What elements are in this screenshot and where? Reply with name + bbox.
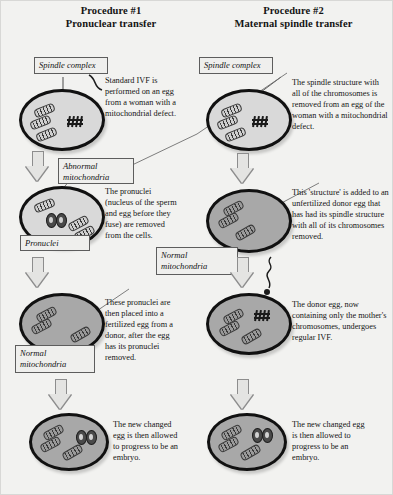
description-p1-step4: The new changed egg is then allowed to p… xyxy=(113,419,183,463)
label-normal-mitochondria-p2-text: Normal mitochondria xyxy=(161,250,207,271)
mitochondrion-icon xyxy=(30,318,53,336)
pronuclei-icon xyxy=(46,213,66,226)
mitochondrion-icon xyxy=(69,325,92,343)
mitochondrion-icon xyxy=(240,327,263,345)
column-title-procedure-2: Procedure #2 Maternal spindle transfer xyxy=(206,5,381,30)
egg-cell-p1-step1 xyxy=(19,89,105,151)
mitochondrion-icon xyxy=(234,223,257,241)
egg-cell-p1-step4 xyxy=(29,413,109,471)
chromosomes-icon xyxy=(68,116,82,127)
label-normal-mitochondria-p1-text: Normal mitochondria xyxy=(20,348,66,369)
egg-cell-p2-step4 xyxy=(207,413,287,471)
procedure-1-title-line2: Pronuclear transfer xyxy=(31,18,191,31)
description-p2-step3: The donor egg, now containing only the m… xyxy=(292,299,388,343)
label-normal-mitochondria-p2: Normal mitochondria xyxy=(156,247,238,275)
mitochondrion-icon xyxy=(39,436,62,454)
procedure-2-title-line2: Maternal spindle transfer xyxy=(206,18,381,31)
procedure-2-title-line1: Procedure #2 xyxy=(206,5,381,18)
label-spindle-complex-p2: Spindle complex xyxy=(199,57,273,74)
mitochondrion-icon xyxy=(61,443,84,461)
label-abnormal-mitochondria-p1: Abnormal mitochondria xyxy=(58,158,134,184)
description-p2-step1: The spindle structure with all of the ch… xyxy=(292,77,388,132)
mitochondrion-icon xyxy=(224,126,247,142)
egg-cell-p2-step3 xyxy=(206,293,292,355)
egg-cell-p2-step1 xyxy=(206,89,292,151)
mitochondrion-icon xyxy=(33,197,56,213)
description-p1-step3: These pronuclei are then placed into a f… xyxy=(105,297,179,364)
label-abnormal-mitochondria-p1-text: Abnormal mitochondria xyxy=(63,161,109,182)
flow-arrow-p1-1to2 xyxy=(26,151,48,181)
flow-arrow-p2-2to3 xyxy=(231,257,253,287)
mitochondrion-icon xyxy=(239,443,262,461)
mitochondrion-icon xyxy=(217,212,240,230)
flow-arrow-p1-3to4 xyxy=(49,379,71,409)
label-normal-mitochondria-p1: Normal mitochondria xyxy=(15,345,95,373)
chromosomes-icon xyxy=(253,116,267,127)
egg-cell-p2-step2 xyxy=(206,189,292,253)
flow-arrow-p2-3to4 xyxy=(231,379,253,409)
mitochondrion-icon xyxy=(217,436,240,454)
description-p2-step2: This 'structure' is added to an unfertil… xyxy=(292,187,390,242)
mitochondrion-icon xyxy=(218,320,241,338)
pronuclei-icon xyxy=(76,430,96,443)
label-spindle-complex-p1: Spindle complex xyxy=(34,57,108,74)
chromosomes-icon xyxy=(255,310,269,321)
mitochondrion-icon xyxy=(35,126,58,142)
label-pronuclei-p1: Pronuclei xyxy=(20,235,90,251)
procedure-1-title-line1: Procedure #1 xyxy=(31,5,191,18)
flow-arrow-p2-1to2 xyxy=(231,153,253,183)
diagram-canvas: Procedure #1 Pronuclear transfer Procedu… xyxy=(0,0,393,495)
mitochondrion-icon xyxy=(216,114,239,130)
column-title-procedure-1: Procedure #1 Pronuclear transfer xyxy=(31,5,191,30)
description-p2-step4: The new changed egg is then allowed to p… xyxy=(292,419,368,463)
description-p1-step1: Standard IVF is performed on an egg from… xyxy=(105,75,179,119)
pronuclei-icon xyxy=(252,428,272,441)
description-p1-step2: The pronuclei (nucleus of the sperm and … xyxy=(105,186,177,241)
flow-arrow-p1-2to3 xyxy=(26,257,48,287)
